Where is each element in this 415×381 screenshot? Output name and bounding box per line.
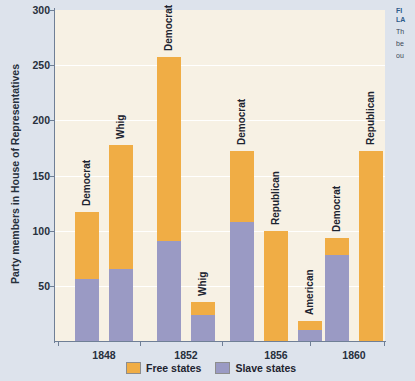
- legend-swatch-slave-states: [215, 362, 230, 374]
- x-tick-mark: [384, 341, 385, 346]
- caption-body-fragment-1: Th: [396, 27, 415, 36]
- caption-body-fragment-2: be: [396, 39, 415, 48]
- caption-subtitle-fragment: LA: [396, 15, 415, 24]
- legend-item-free-states: Free states: [126, 362, 201, 374]
- x-axis-labels: 1848185218561860: [0, 0, 415, 381]
- x-tick-mark: [222, 341, 223, 346]
- legend-item-slave-states: Slave states: [215, 362, 296, 374]
- legend: Free states Slave states: [126, 362, 296, 374]
- caption-title-fragment: FI: [396, 6, 415, 15]
- x-tick-mark: [58, 341, 59, 346]
- x-tick-label-1856: 1856: [246, 349, 306, 361]
- legend-label-free-states: Free states: [146, 362, 201, 374]
- figure-caption-fragment: FI LA Th be ou: [396, 6, 415, 76]
- x-tick-label-1860: 1860: [324, 349, 384, 361]
- x-tick-mark: [140, 341, 141, 346]
- x-tick-mark: [310, 341, 311, 346]
- caption-body-fragment-3: ou: [396, 51, 415, 60]
- legend-label-slave-states: Slave states: [235, 362, 296, 374]
- x-tick-label-1848: 1848: [74, 349, 134, 361]
- x-tick-label-1852: 1852: [156, 349, 216, 361]
- legend-swatch-free-states: [126, 362, 141, 374]
- figure-stacked-bar-chart: 50100150200250300 Party members in House…: [0, 0, 415, 381]
